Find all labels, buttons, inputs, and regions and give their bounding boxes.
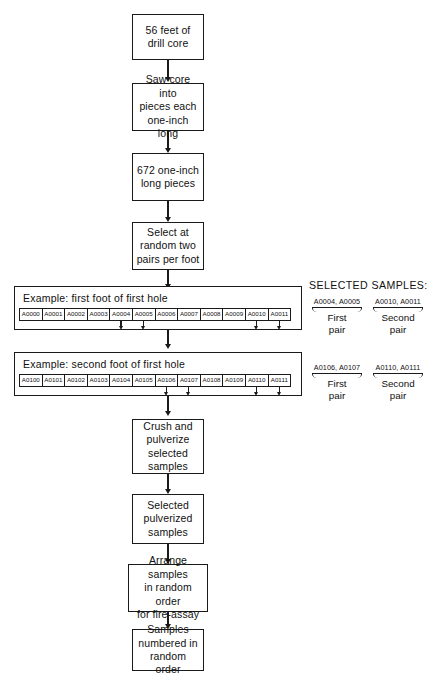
- node-label: Crush and pulverize selected samples: [143, 420, 192, 474]
- sample-cell: A0011: [268, 308, 292, 321]
- sample-cell: A0104: [109, 374, 133, 387]
- legend-pair: A0010, A0011 Second pair: [366, 297, 430, 335]
- sample-cell: A0100: [19, 374, 43, 387]
- node-label: 56 feet of drill core: [146, 24, 191, 51]
- example-panel-second-foot: Example: second foot of first hole A0100…: [14, 352, 302, 396]
- legend-pair-caption: Second pair: [366, 312, 430, 335]
- brace-icon: [312, 372, 362, 377]
- sample-cell: A0007: [177, 308, 201, 321]
- legend-pair-caption: First pair: [305, 312, 369, 335]
- node-select-random: Select at random two pairs per foot: [132, 222, 204, 270]
- sample-cell: A0009: [222, 308, 246, 321]
- legend-pair-caption: Second pair: [366, 378, 430, 401]
- sample-cell: A0111: [268, 374, 292, 387]
- node-672-pieces: 672 one-inch long pieces: [132, 153, 204, 201]
- brace-icon: [312, 306, 362, 311]
- node-label: Samples numbered in random order: [136, 623, 200, 677]
- sample-cell-row: A0100A0101A0102A0103A0104A0105A0106A0107…: [19, 374, 290, 387]
- sample-cell: A0106: [155, 374, 179, 387]
- legend-pair-ids: A0106, A0107: [305, 363, 369, 372]
- sample-cell: A0005: [132, 308, 156, 321]
- sample-cell: A0110: [245, 374, 269, 387]
- node-samples-numbered: Samples numbered in random order: [132, 629, 204, 671]
- legend-pair-ids: A0004, A0005: [305, 297, 369, 306]
- sample-cell: A0108: [200, 374, 224, 387]
- sample-cell: A0010: [245, 308, 269, 321]
- sample-cell: A0000: [19, 308, 43, 321]
- legend-pair: A0106, A0107 First pair: [305, 363, 369, 401]
- legend-pair: A0110, A0111 Second pair: [366, 363, 430, 401]
- legend-pair-caption: First pair: [305, 378, 369, 401]
- example-title: Example: second foot of first hole: [23, 358, 185, 370]
- sample-cell: A0107: [177, 374, 201, 387]
- node-label: 672 one-inch long pieces: [137, 164, 199, 191]
- sample-cell: A0006: [155, 308, 179, 321]
- node-selected-pulverized: Selected pulverized samples: [132, 494, 204, 544]
- arrowhead-5: [165, 344, 171, 349]
- node-label: Select at random two pairs per foot: [137, 226, 200, 266]
- legend-title: SELECTED SAMPLES:: [309, 279, 428, 291]
- legend-pair: A0004, A0005 First pair: [305, 297, 369, 335]
- sample-cell: A0001: [42, 308, 66, 321]
- sample-cell: A0105: [132, 374, 156, 387]
- node-arrange-samples: Arrange samples in random order for fire…: [128, 564, 208, 612]
- example-title: Example: first foot of first hole: [23, 292, 168, 304]
- sample-cell: A0102: [64, 374, 88, 387]
- arrowhead-6: [165, 411, 171, 416]
- node-drill-core: 56 feet of drill core: [132, 14, 204, 60]
- brace-icon: [373, 306, 423, 311]
- brace-icon: [373, 372, 423, 377]
- sample-cell: A0002: [64, 308, 88, 321]
- sample-cell-row: A0000A0001A0002A0003A0004A0005A0006A0007…: [19, 308, 290, 321]
- sample-cell: A0003: [87, 308, 111, 321]
- example-panel-first-foot: Example: first foot of first hole A0000A…: [14, 286, 302, 330]
- sample-cell: A0008: [200, 308, 224, 321]
- node-crush-pulverize: Crush and pulverize selected samples: [132, 419, 204, 474]
- sample-cell: A0109: [222, 374, 246, 387]
- sample-cell: A0103: [87, 374, 111, 387]
- node-label: Selected pulverized samples: [144, 499, 193, 539]
- sample-cell: A0004: [109, 308, 133, 321]
- node-saw-core: Saw core into pieces each one-inch long: [132, 83, 204, 131]
- legend-pair-ids: A0110, A0111: [366, 363, 430, 372]
- sample-cell: A0101: [42, 374, 66, 387]
- legend-pair-ids: A0010, A0011: [366, 297, 430, 306]
